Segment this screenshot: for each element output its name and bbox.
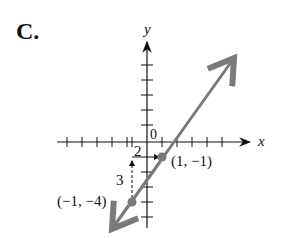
run-label: 2 xyxy=(134,143,142,159)
rise-label: 3 xyxy=(116,172,124,188)
point-2-label: (−1, −4) xyxy=(57,193,106,210)
x-axis: x xyxy=(57,133,265,149)
point-1-label: (1, −1) xyxy=(171,153,212,170)
x-axis-label: x xyxy=(257,133,265,149)
point-1-marker xyxy=(158,153,167,162)
y-axis-label: y xyxy=(142,21,151,37)
coordinate-graph: x y 0 2 3 (1, −1) (−1, −4) xyxy=(0,0,282,238)
origin-label: 0 xyxy=(150,127,157,142)
y-axis: y xyxy=(141,21,153,228)
point-2-marker xyxy=(128,198,137,207)
